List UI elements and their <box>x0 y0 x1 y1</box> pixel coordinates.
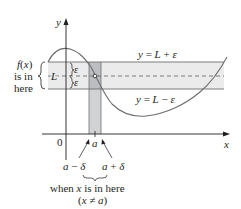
a-label: a <box>92 137 98 149</box>
lower-epsilon-label: ε <box>74 77 78 88</box>
a-minus-delta-arrowhead-icon <box>86 139 90 145</box>
a-plus-delta-label: a + δ <box>102 160 125 172</box>
x-axis-arrow-icon <box>223 132 230 137</box>
hole-point <box>93 74 97 78</box>
a-plus-delta-arrow <box>103 142 112 158</box>
a-minus-delta-arrow <box>79 142 88 158</box>
origin-label: 0 <box>57 136 63 148</box>
upper-epsilon-label: ε <box>74 64 78 75</box>
a-plus-delta-arrowhead-icon <box>102 139 106 145</box>
a-minus-delta-label: a − δ <box>63 160 86 172</box>
fx-label-line3: here <box>14 82 33 94</box>
epsilon-delta-diagram: y x 0 y = L + ε y = L − ε L ε ε f(x) is … <box>0 0 241 209</box>
lower-line-label: y = L − ε <box>135 93 175 105</box>
y-axis-label: y <box>55 16 61 28</box>
fx-brace <box>38 62 45 89</box>
x-condition-line2: (x ≠ a) <box>78 194 108 207</box>
x-axis-label: x <box>223 138 229 150</box>
upper-line-label: y = L + ε <box>137 48 177 60</box>
fx-label-line2: is in <box>14 70 33 82</box>
x-condition-line1: when x is in here <box>50 182 125 194</box>
delta-brace <box>83 175 107 181</box>
y-axis-arrow-icon <box>64 18 69 25</box>
L-label: L <box>50 70 57 82</box>
